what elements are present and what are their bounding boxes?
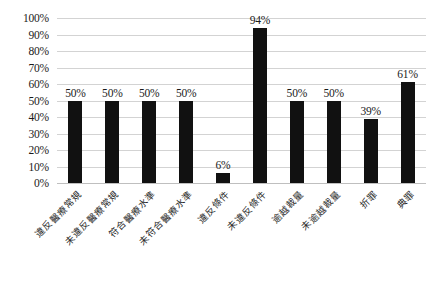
bar[interactable] xyxy=(142,101,156,184)
bar-value-label: 39% xyxy=(360,105,380,117)
y-axis: 100%90%80%70%60%50%40%30%20%10%0% xyxy=(0,18,53,183)
bar-value-label: 50% xyxy=(287,87,307,99)
x-axis-label-slot: 違反條件 xyxy=(205,185,242,285)
bar-value-label: 50% xyxy=(65,87,85,99)
bar-slot: 61% xyxy=(389,18,426,183)
bar-value-label: 50% xyxy=(323,87,343,99)
y-axis-tick-label: 90% xyxy=(29,29,49,41)
y-axis-tick-label: 20% xyxy=(29,144,49,156)
y-axis-tick-label: 50% xyxy=(29,95,49,107)
bar[interactable] xyxy=(179,101,193,184)
bar[interactable] xyxy=(290,101,304,184)
bar-slot: 50% xyxy=(94,18,131,183)
bar[interactable] xyxy=(253,28,267,183)
y-axis-tick-label: 30% xyxy=(29,128,49,140)
x-axis-label-slot: 折罪 xyxy=(352,185,389,285)
bar-slot: 6% xyxy=(205,18,242,183)
bar[interactable] xyxy=(327,101,341,184)
x-axis-label-slot: 典罪 xyxy=(389,185,426,285)
plot-area: 50%50%50%50%6%94%50%50%39%61% xyxy=(57,18,426,183)
bar[interactable] xyxy=(364,119,378,183)
x-axis: 違反醫療常規未違反醫療常規符合醫療水準未符合醫療水準違反條件未違反條件逾越裁量未… xyxy=(57,185,426,285)
y-axis-tick-label: 70% xyxy=(29,62,49,74)
bar[interactable] xyxy=(401,82,415,183)
x-axis-category-label: 折罪 xyxy=(356,187,380,211)
bar-value-label: 61% xyxy=(397,68,417,80)
y-axis-tick-label: 10% xyxy=(29,161,49,173)
bar[interactable] xyxy=(216,173,230,183)
bar-value-label: 6% xyxy=(216,159,231,171)
bar[interactable] xyxy=(105,101,119,184)
y-axis-tick-label: 0% xyxy=(34,177,49,189)
x-axis-category-label: 典罪 xyxy=(393,187,417,211)
y-axis-tick-label: 100% xyxy=(23,12,49,24)
bar-value-label: 50% xyxy=(102,87,122,99)
x-axis-label-slot: 未符合醫療水準 xyxy=(168,185,205,285)
bar-slot: 50% xyxy=(315,18,352,183)
y-axis-tick-label: 40% xyxy=(29,111,49,123)
bar-slot: 50% xyxy=(278,18,315,183)
bar-slot: 94% xyxy=(242,18,279,183)
bar-value-label: 50% xyxy=(176,87,196,99)
bar-slot: 50% xyxy=(57,18,94,183)
chart-screenshot: 100%90%80%70%60%50%40%30%20%10%0% 50%50%… xyxy=(0,0,442,288)
y-axis-tick-label: 60% xyxy=(29,78,49,90)
y-axis-tick-label: 80% xyxy=(29,45,49,57)
bar-slot: 50% xyxy=(168,18,205,183)
x-axis-label-slot: 未違反條件 xyxy=(242,185,279,285)
bar-slot: 39% xyxy=(352,18,389,183)
bar[interactable] xyxy=(68,101,82,184)
bar-value-label: 50% xyxy=(139,87,159,99)
bar-value-label: 94% xyxy=(250,14,270,26)
gridline xyxy=(57,183,426,184)
x-axis-label-slot: 逾越裁量 xyxy=(278,185,315,285)
bar-slot: 50% xyxy=(131,18,168,183)
x-axis-label-slot: 未逾越裁量 xyxy=(315,185,352,285)
